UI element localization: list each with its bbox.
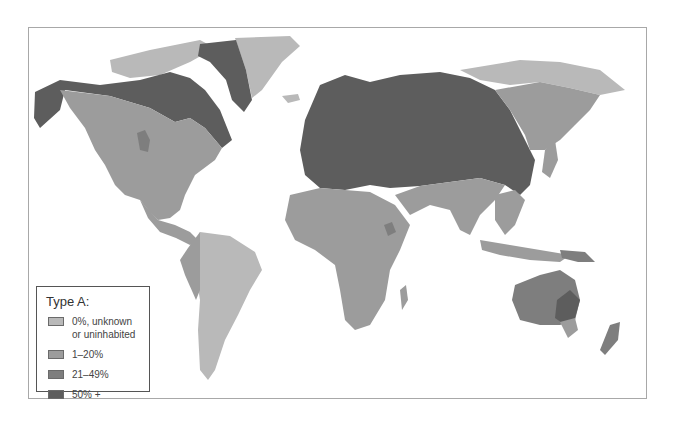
region-southeast-asia: [495, 190, 525, 235]
legend-label-level-0: 0%, unknown or uninhabited: [72, 315, 142, 341]
legend-item-level-0: 0%, unknown or uninhabited: [46, 315, 149, 341]
legend-swatch-level-3: [48, 390, 64, 399]
region-africa: [285, 188, 410, 330]
legend-item-level-3: 50% +: [46, 388, 149, 401]
region-arctic-islands: [110, 40, 215, 78]
legend-swatch-level-2: [48, 370, 64, 379]
region-iceland: [282, 94, 300, 103]
legend: Type A: 0%, unknown or uninhabited 1–20%…: [36, 286, 150, 392]
region-new-guinea: [560, 250, 595, 262]
legend-label-level-2: 21–49%: [72, 368, 142, 381]
legend-swatch-level-1: [48, 350, 64, 359]
region-south-america: [190, 232, 262, 380]
legend-label-level-1: 1–20%: [72, 348, 142, 361]
region-madagascar: [400, 285, 408, 310]
region-new-zealand: [600, 322, 620, 355]
legend-swatch-level-0: [48, 317, 64, 326]
region-indonesia: [480, 240, 570, 262]
legend-item-level-2: 21–49%: [46, 368, 149, 381]
legend-label-level-3: 50% +: [72, 388, 142, 401]
legend-item-level-1: 1–20%: [46, 348, 149, 361]
legend-title: Type A:: [46, 294, 149, 309]
